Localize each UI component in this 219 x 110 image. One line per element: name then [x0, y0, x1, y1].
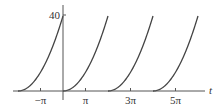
- curve-segment-0: [18, 16, 63, 91]
- x-tick-label: 5π: [170, 94, 182, 106]
- x-tick-label: 3π: [125, 94, 137, 106]
- curve-segment-2: [108, 16, 153, 91]
- x-tick-label: −π: [35, 94, 47, 106]
- x-axis-label: t: [209, 84, 213, 96]
- y-tick-label: 40: [49, 9, 61, 21]
- curve-segment-3: [153, 16, 198, 91]
- curve-segment-1: [63, 16, 108, 91]
- curve-group: [18, 16, 198, 91]
- x-tick-label: π: [83, 94, 89, 106]
- chart: −ππ3π5π 40 t: [0, 0, 219, 110]
